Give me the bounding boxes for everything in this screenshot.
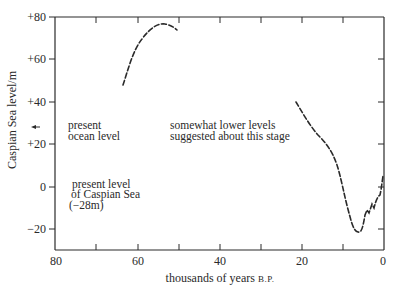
y-axis-title: Caspian Sea level/m — [5, 70, 19, 169]
y-tick-label: +20 — [27, 137, 46, 151]
x-tick-label: 60 — [132, 254, 144, 268]
x-axis-title: thousands of years B.P. — [166, 271, 275, 285]
annotation-present-caspian-level: present level of Caspian Sea (−28m) — [69, 178, 140, 212]
x-tick-label: 20 — [296, 254, 308, 268]
x-tick-label: 40 — [214, 254, 226, 268]
y-tick-label: +40 — [27, 95, 46, 109]
y-tick-label: 0 — [40, 180, 46, 194]
x-tick-labels: 80 60 40 20 0 — [50, 254, 386, 268]
x-axis-title-main: thousands of years — [166, 271, 258, 285]
curve-early-high-stand — [123, 24, 177, 85]
caspian-level-line3: (−28m) — [69, 199, 104, 212]
y-tick-labels: +80 +60 +40 +20 0 −20 — [27, 10, 46, 236]
annotation-lower-levels: somewhat lower levels suggested about th… — [170, 119, 290, 143]
x-tick-label: 0 — [380, 254, 386, 268]
y-tick-label: −20 — [27, 222, 46, 236]
y-tick-label: +80 — [27, 10, 46, 24]
y-tick-label: +60 — [27, 52, 46, 66]
lower-levels-line2: suggested about this stage — [170, 130, 290, 143]
x-axis-title-unit: B.P. — [258, 274, 275, 284]
curve-late-holocene — [296, 102, 383, 232]
x-tick-label: 80 — [50, 254, 62, 268]
ocean-level-label-line2: ocean level — [68, 130, 120, 142]
caspian-sea-level-chart: +80 +60 +40 +20 0 −20 80 60 40 20 0 Casp… — [0, 0, 394, 288]
